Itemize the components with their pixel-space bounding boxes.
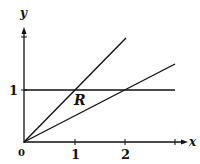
x-tick-label-2: 2 [121, 147, 130, 162]
y-tick-label-1: 1 [9, 83, 18, 98]
origin-label: 0 [18, 147, 25, 158]
x-axis-label: x [188, 135, 197, 149]
chart-plot: y x 0 1 2 1 R [0, 0, 200, 164]
x-tick-label-1: 1 [71, 147, 80, 162]
region-label: R [73, 92, 86, 108]
y-axis-label: y [19, 6, 28, 20]
x-axis-arrow-icon [181, 140, 188, 145]
line-y-equals-half-x [24, 64, 175, 142]
y-axis-arrow-icon [22, 27, 27, 34]
